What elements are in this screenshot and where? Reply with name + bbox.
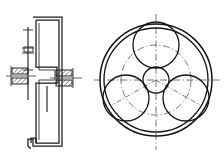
- bearing-left-upper: [12, 68, 28, 74]
- drawing-canvas: [0, 0, 224, 158]
- bearing-right-lower: [56, 80, 72, 86]
- sectional-side-view: [6, 17, 82, 148]
- front-view: [94, 14, 220, 150]
- bearing-left-lower: [12, 78, 28, 84]
- engineering-drawing-sheet: [0, 0, 224, 158]
- bearing-right-upper: [56, 70, 72, 76]
- planet-gear-lower-left: [103, 75, 149, 121]
- web-step-profile-inner: [39, 23, 55, 140]
- housing-profile-inner: [31, 20, 59, 143]
